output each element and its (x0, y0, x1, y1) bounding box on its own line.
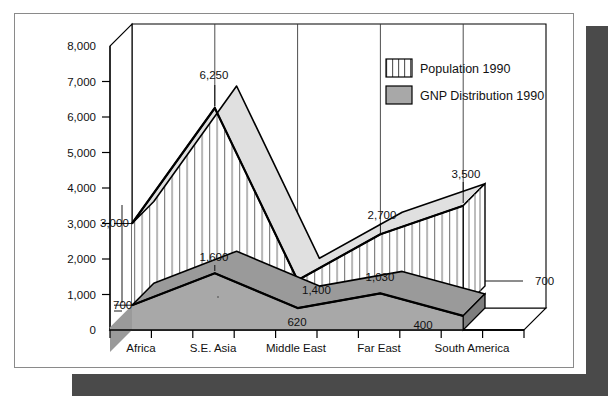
y-tick-label: 3,000 (67, 218, 96, 230)
page-drop-shadow-right (586, 26, 608, 396)
x-category-label: Far East (357, 342, 401, 354)
data-label-gnp: 1,600 (200, 251, 229, 263)
y-tick-label: 2,000 (67, 253, 96, 265)
area-chart-3d: 8,000 7,000 6,000 5,000 4,000 3,000 2,00… (14, 13, 574, 368)
y-tick-label: 6,000 (67, 111, 96, 123)
legend-swatch-gnp (386, 86, 412, 104)
y-axis (102, 46, 110, 330)
legend-swatch-population (386, 59, 412, 77)
x-axis (110, 330, 524, 338)
data-label-gnp: 620 (287, 316, 306, 328)
x-category-label: South America (435, 342, 510, 354)
data-label-population: 3,000 (100, 217, 129, 229)
data-label-gnp: 1,030 (366, 271, 395, 283)
data-label-population: 700 (535, 275, 554, 287)
data-label-gnp: 400 (413, 319, 432, 331)
x-category-label: S.E. Asia (190, 342, 237, 354)
page-drop-shadow-bottom (72, 374, 608, 396)
y-tick-label: 4,000 (67, 182, 96, 194)
data-label-population: 1,400 (302, 284, 331, 296)
legend-label-population: Population 1990 (420, 62, 510, 76)
chart-page: 8,000 7,000 6,000 5,000 4,000 3,000 2,00… (0, 0, 612, 403)
x-axis-category-labels: Africa S.E. Asia Middle East Far East So… (126, 342, 510, 354)
x-category-label: Africa (126, 342, 156, 354)
data-label-population: 2,700 (368, 209, 397, 221)
data-label-population: 6,250 (200, 69, 229, 81)
y-tick-label: 0 (90, 324, 96, 336)
chart-left-wall (110, 24, 132, 330)
legend-label-gnp: GNP Distribution 1990 (420, 89, 544, 103)
data-label-population: 3,500 (452, 168, 481, 180)
y-tick-label: 7,000 (67, 76, 96, 88)
y-tick-label: 8,000 (67, 40, 96, 52)
y-axis-tick-labels: 8,000 7,000 6,000 5,000 4,000 3,000 2,00… (67, 40, 96, 336)
y-tick-label: 5,000 (67, 147, 96, 159)
x-category-label: Middle East (266, 342, 327, 354)
y-tick-label: 1,000 (67, 289, 96, 301)
